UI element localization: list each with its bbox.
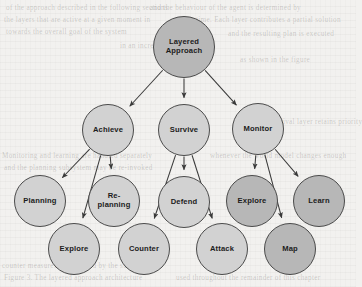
node-label-learn: Learn bbox=[294, 197, 344, 206]
edge-monitor-to-explore-monitor bbox=[255, 155, 256, 169]
node-label-map: Map bbox=[265, 245, 315, 254]
edge-monitor-to-learn bbox=[275, 149, 298, 176]
node-explore-achieve[interactable]: Explore bbox=[48, 223, 100, 275]
node-achieve[interactable]: Achieve bbox=[82, 104, 134, 156]
node-defend[interactable]: Defend bbox=[158, 176, 210, 228]
node-label-explore-monitor: Explore bbox=[227, 197, 277, 206]
node-attack[interactable]: Attack bbox=[196, 223, 248, 275]
node-label-monitor: Monitor bbox=[233, 125, 283, 134]
node-planning[interactable]: Planning bbox=[14, 175, 66, 227]
edge-achieve-to-planning bbox=[62, 149, 89, 178]
node-monitor[interactable]: Monitor bbox=[232, 103, 284, 155]
node-label-attack: Attack bbox=[197, 245, 247, 254]
edge-layered-approach-to-monitor bbox=[205, 70, 236, 105]
node-map[interactable]: Map bbox=[264, 223, 316, 275]
node-label-planning: Planning bbox=[15, 197, 65, 206]
node-layered-approach[interactable]: Layered Approach bbox=[153, 16, 215, 78]
node-re-planning[interactable]: Re- planning bbox=[88, 175, 140, 227]
node-label-survive: Survive bbox=[159, 126, 209, 135]
edge-achieve-to-re-planning bbox=[110, 156, 111, 169]
node-label-achieve: Achieve bbox=[83, 126, 133, 135]
node-explore-monitor[interactable]: Explore bbox=[226, 175, 278, 227]
node-label-defend: Defend bbox=[159, 198, 209, 207]
node-label-re-planning: Re- planning bbox=[89, 192, 139, 209]
edge-layered-approach-to-achieve bbox=[130, 70, 163, 106]
node-label-layered-approach: Layered Approach bbox=[154, 38, 214, 55]
node-counter[interactable]: Counter bbox=[118, 223, 170, 275]
node-learn[interactable]: Learn bbox=[293, 175, 345, 227]
node-survive[interactable]: Survive bbox=[158, 104, 210, 156]
node-label-counter: Counter bbox=[119, 245, 169, 254]
node-label-explore-achieve: Explore bbox=[49, 245, 99, 254]
